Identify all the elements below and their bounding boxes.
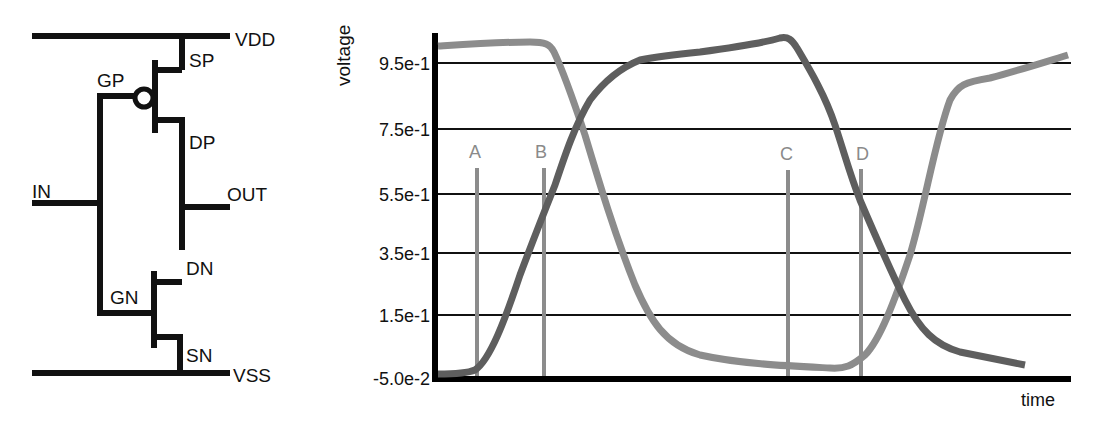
gridlines	[436, 63, 1071, 315]
time-markers	[477, 168, 861, 376]
gp-label: GP	[97, 71, 124, 90]
vdd-label: VDD	[235, 30, 275, 49]
x-axis-label: time	[1021, 391, 1055, 409]
gn-label: GN	[110, 288, 139, 307]
y-tick-label: 7.5e-1	[334, 121, 430, 139]
schematic-and-chart-canvas	[0, 0, 1106, 434]
in-label: IN	[32, 182, 51, 201]
voltage-time-chart	[432, 33, 1071, 382]
marker-a-label: A	[469, 143, 481, 161]
sp-label: SP	[189, 51, 214, 70]
input-waveform	[438, 42, 1068, 368]
y-tick-label: 3.5e-1	[334, 245, 430, 263]
vss-label: VSS	[233, 366, 271, 385]
output-waveform	[438, 37, 1025, 374]
cmos-inverter-schematic	[32, 36, 230, 374]
y-tick-label: 1.5e-1	[334, 307, 430, 325]
marker-d-label: D	[856, 145, 869, 163]
marker-b-label: B	[535, 143, 547, 161]
pmos-gate-bubble-icon	[135, 89, 153, 107]
dp-label: DP	[189, 133, 215, 152]
out-label: OUT	[227, 185, 267, 204]
marker-c-label: C	[780, 145, 793, 163]
y-tick-label: -5.0e-2	[334, 370, 430, 388]
sn-label: SN	[186, 346, 212, 365]
y-tick-label: 5.5e-1	[334, 186, 430, 204]
dn-label: DN	[186, 259, 213, 278]
y-tick-label: 9.5e-1	[334, 55, 430, 73]
